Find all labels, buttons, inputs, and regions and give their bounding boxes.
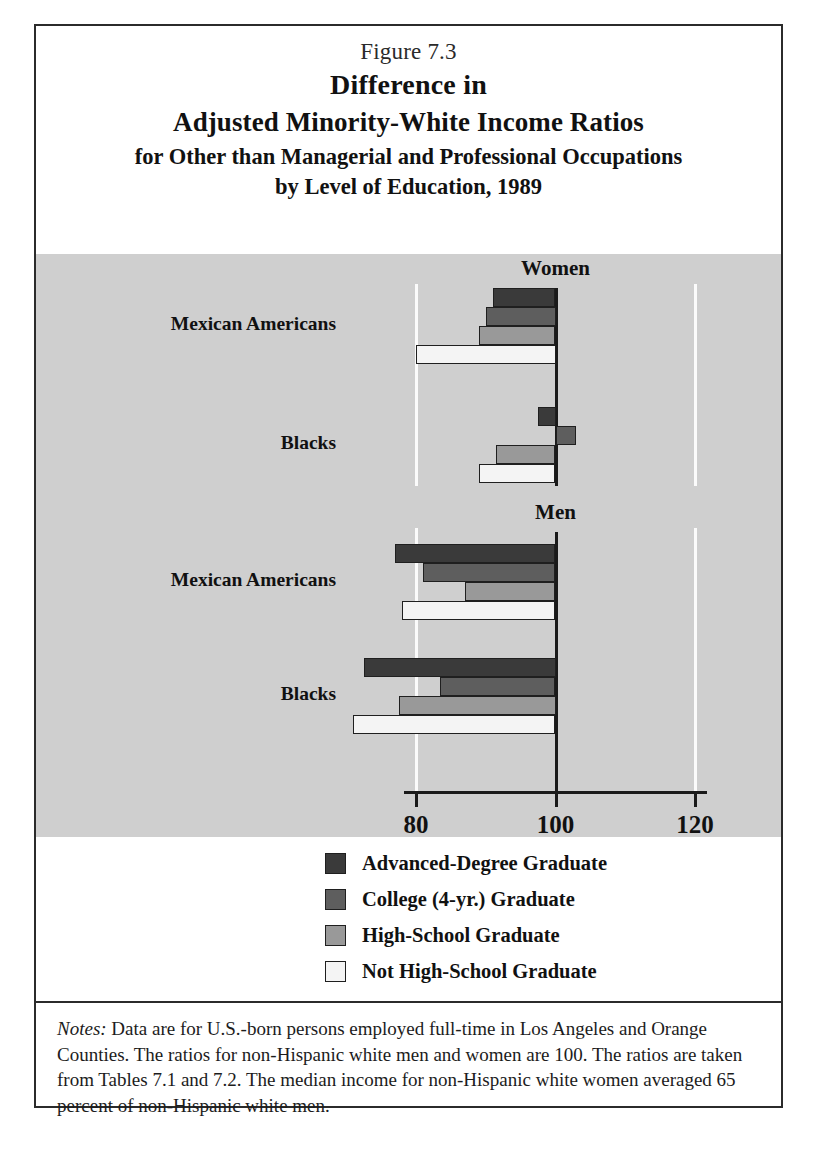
legend-label-high-school-graduate: High-School Graduate bbox=[362, 924, 560, 947]
bar-men-blacks-advanced-degree-graduate bbox=[364, 658, 556, 677]
bar-men-blacks-not-high-school-graduate bbox=[353, 715, 555, 734]
chart-legend: Advanced-Degree Graduate College (4-yr.)… bbox=[325, 845, 607, 989]
bar-women-blacks-not-high-school-graduate bbox=[479, 464, 556, 483]
x-axis-tick-label-80: 80 bbox=[404, 811, 429, 837]
bar-women-mexican-americans-high-school-graduate bbox=[479, 326, 556, 345]
bar-men-mexican-americans-college-4-yr-graduate bbox=[423, 563, 556, 582]
bar-women-blacks-advanced-degree-graduate bbox=[538, 407, 555, 426]
figure-number: Figure 7.3 bbox=[36, 37, 781, 67]
legend-swatch-icon-not-high-school-graduate bbox=[325, 961, 346, 982]
gridline-120-women bbox=[694, 284, 697, 486]
legend-item-college-graduate: College (4-yr.) Graduate bbox=[325, 881, 607, 917]
notes-separator bbox=[36, 1001, 781, 1003]
x-axis-tick-120 bbox=[694, 794, 697, 807]
page-title-line-2: Adjusted Minority-White Income Ratios bbox=[36, 103, 781, 141]
x-axis-tick-100 bbox=[555, 794, 558, 807]
category-label-men-mexican-americans: Mexican Americans bbox=[66, 569, 336, 591]
notes-text: Data are for U.S.-born persons employed … bbox=[57, 1018, 742, 1116]
legend-label-advanced-degree: Advanced-Degree Graduate bbox=[362, 852, 607, 875]
gridline-120-men bbox=[694, 528, 697, 791]
page-title-line-3: for Other than Managerial and Profession… bbox=[36, 141, 781, 172]
figure-frame: Figure 7.3 Difference in Adjusted Minori… bbox=[34, 24, 783, 1108]
bar-women-mexican-americans-not-high-school-graduate bbox=[416, 345, 556, 364]
x-axis-tick-80 bbox=[415, 794, 418, 807]
page-title-line-4: by Level of Education, 1989 bbox=[36, 172, 781, 202]
bar-men-mexican-americans-high-school-graduate bbox=[465, 582, 556, 601]
bar-men-mexican-americans-advanced-degree-graduate bbox=[395, 544, 555, 563]
legend-swatch-icon-high-school-graduate bbox=[325, 925, 346, 946]
legend-item-high-school-graduate: High-School Graduate bbox=[325, 917, 607, 953]
x-axis-tick-label-100: 100 bbox=[537, 811, 575, 837]
bar-men-blacks-college-4-yr-graduate bbox=[440, 677, 555, 696]
notes-block: Notes: Data are for U.S.-born persons em… bbox=[57, 1016, 762, 1118]
legend-label-college-graduate: College (4-yr.) Graduate bbox=[362, 888, 575, 911]
panel-header-women: Women bbox=[521, 256, 590, 281]
legend-item-advanced-degree: Advanced-Degree Graduate bbox=[325, 845, 607, 881]
bar-women-blacks-high-school-graduate bbox=[496, 445, 555, 464]
scan-page-edge bbox=[818, 0, 835, 1160]
bar-men-mexican-americans-not-high-school-graduate bbox=[402, 601, 555, 620]
category-label-men-blacks: Blacks bbox=[66, 683, 336, 705]
x-axis-tick-label-120: 120 bbox=[676, 811, 714, 837]
bar-women-mexican-americans-college-4-yr-graduate bbox=[486, 307, 556, 326]
category-label-women-mexican-americans: Mexican Americans bbox=[66, 313, 336, 335]
gridline-80-women bbox=[415, 284, 418, 486]
figure-title-block: Figure 7.3 Difference in Adjusted Minori… bbox=[36, 26, 781, 202]
legend-swatch-icon-advanced-degree bbox=[325, 853, 346, 874]
category-label-women-blacks: Blacks bbox=[66, 432, 336, 454]
bar-women-blacks-college-4-yr-graduate bbox=[556, 426, 577, 445]
notes-label: Notes: bbox=[57, 1018, 107, 1039]
chart-plot-area: Women Men Mexican Americans Blacks Mexic… bbox=[36, 254, 781, 837]
bar-men-blacks-high-school-graduate bbox=[399, 696, 556, 715]
legend-item-not-high-school-graduate: Not High-School Graduate bbox=[325, 953, 607, 989]
legend-swatch-icon-college-graduate bbox=[325, 889, 346, 910]
bar-women-mexican-americans-advanced-degree-graduate bbox=[493, 288, 556, 307]
panel-header-men: Men bbox=[535, 500, 576, 525]
legend-label-not-high-school-graduate: Not High-School Graduate bbox=[362, 960, 597, 983]
page-title-line-1: Difference in bbox=[36, 67, 781, 103]
